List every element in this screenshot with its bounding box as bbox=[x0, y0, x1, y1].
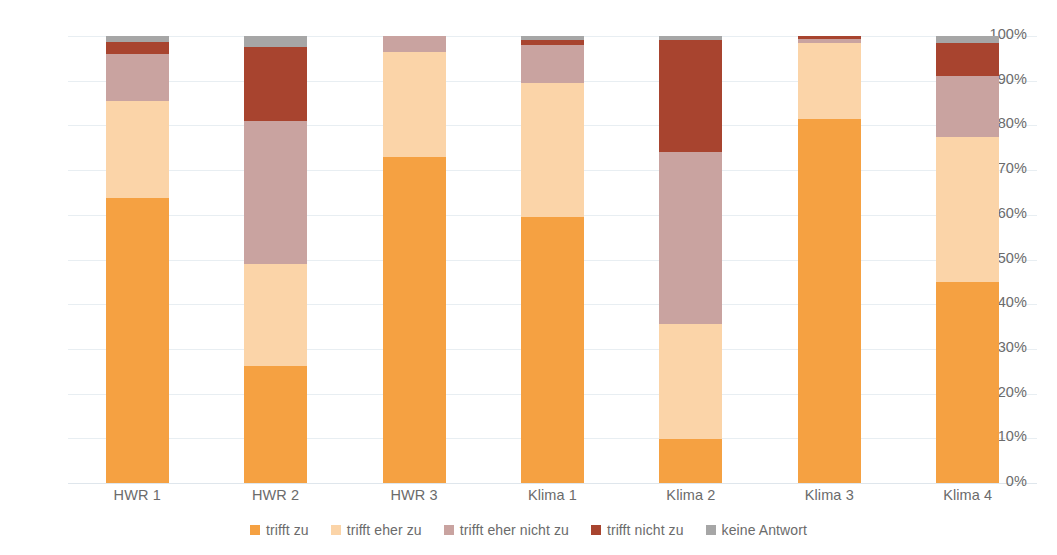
bar-slot bbox=[760, 36, 898, 483]
bar-segment[interactable] bbox=[659, 439, 722, 483]
x-axis-label: HWR 1 bbox=[68, 487, 206, 503]
bar-segment[interactable] bbox=[798, 119, 861, 483]
bar-slot bbox=[206, 36, 344, 483]
legend-swatch-icon bbox=[250, 525, 260, 535]
bar-segment[interactable] bbox=[244, 121, 307, 264]
legend-swatch-icon bbox=[591, 525, 601, 535]
stacked-bar[interactable] bbox=[659, 36, 722, 483]
gridline bbox=[68, 483, 1037, 484]
stacked-bar[interactable] bbox=[106, 36, 169, 483]
legend-swatch-icon bbox=[444, 525, 454, 535]
bar-segment[interactable] bbox=[244, 36, 307, 47]
legend-label: trifft eher zu bbox=[347, 522, 422, 538]
bar-segment[interactable] bbox=[106, 101, 169, 198]
bar-segment[interactable] bbox=[521, 83, 584, 217]
bar-segment[interactable] bbox=[936, 43, 999, 77]
bar-segment[interactable] bbox=[936, 36, 999, 43]
x-axis-label: Klima 2 bbox=[622, 487, 760, 503]
bar-slot bbox=[68, 36, 206, 483]
legend-swatch-icon bbox=[331, 525, 341, 535]
stacked-bar[interactable] bbox=[798, 36, 861, 483]
bar-segment[interactable] bbox=[659, 152, 722, 324]
legend-item[interactable]: trifft eher zu bbox=[331, 522, 422, 538]
x-axis-label: HWR 3 bbox=[345, 487, 483, 503]
x-axis-label: Klima 4 bbox=[899, 487, 1037, 503]
stacked-bar-chart: 0%10%20%30%40%50%60%70%80%90%100% HWR 1H… bbox=[0, 0, 1057, 555]
bar-slot bbox=[483, 36, 621, 483]
bar-segment[interactable] bbox=[936, 137, 999, 282]
bar-segment[interactable] bbox=[383, 157, 446, 483]
stacked-bar[interactable] bbox=[521, 36, 584, 483]
legend-label: keine Antwort bbox=[722, 522, 807, 538]
legend-item[interactable]: trifft nicht zu bbox=[591, 522, 684, 538]
bar-segment[interactable] bbox=[106, 54, 169, 101]
legend-item[interactable]: keine Antwort bbox=[706, 522, 807, 538]
bar-segment[interactable] bbox=[936, 76, 999, 136]
bar-segment[interactable] bbox=[936, 282, 999, 483]
legend-label: trifft zu bbox=[266, 522, 309, 538]
bar-slot bbox=[345, 36, 483, 483]
bar-segment[interactable] bbox=[383, 36, 446, 52]
bars-layer bbox=[68, 36, 1037, 483]
bar-segment[interactable] bbox=[659, 324, 722, 439]
x-axis-label: HWR 2 bbox=[206, 487, 344, 503]
legend-item[interactable]: trifft eher nicht zu bbox=[444, 522, 569, 538]
bar-segment[interactable] bbox=[106, 42, 169, 54]
stacked-bar[interactable] bbox=[936, 36, 999, 483]
bar-slot bbox=[899, 36, 1037, 483]
legend-label: trifft eher nicht zu bbox=[460, 522, 569, 538]
x-axis-label: Klima 3 bbox=[760, 487, 898, 503]
x-axis-labels: HWR 1HWR 2HWR 3Klima 1Klima 2Klima 3Klim… bbox=[68, 487, 1037, 503]
bar-segment[interactable] bbox=[244, 264, 307, 366]
bar-segment[interactable] bbox=[521, 45, 584, 83]
bar-segment[interactable] bbox=[383, 52, 446, 157]
legend-swatch-icon bbox=[706, 525, 716, 535]
bar-segment[interactable] bbox=[244, 47, 307, 120]
legend-item[interactable]: trifft zu bbox=[250, 522, 309, 538]
bar-segment[interactable] bbox=[798, 43, 861, 119]
plot-area: 0%10%20%30%40%50%60%70%80%90%100% bbox=[68, 36, 1037, 483]
stacked-bar[interactable] bbox=[383, 36, 446, 483]
bar-segment[interactable] bbox=[244, 366, 307, 483]
bar-segment[interactable] bbox=[521, 217, 584, 483]
bar-segment[interactable] bbox=[106, 198, 169, 483]
x-axis-label: Klima 1 bbox=[483, 487, 621, 503]
legend-label: trifft nicht zu bbox=[607, 522, 684, 538]
bar-segment[interactable] bbox=[659, 40, 722, 152]
stacked-bar[interactable] bbox=[244, 36, 307, 483]
bar-slot bbox=[622, 36, 760, 483]
chart-legend: trifft zutrifft eher zutrifft eher nicht… bbox=[0, 522, 1057, 538]
